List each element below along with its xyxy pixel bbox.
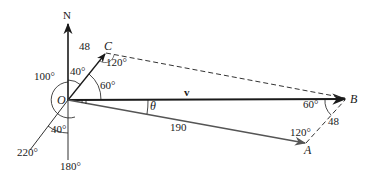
- vector-oa: [68, 100, 305, 143]
- point-b-label: B: [350, 92, 358, 106]
- len-ab-label: 48: [328, 115, 340, 127]
- arc-40-top: [68, 80, 81, 85]
- angle-60-o-label: 60°: [100, 79, 115, 91]
- angle-120-a-label: 120°: [290, 126, 311, 138]
- len-oc-label: 48: [79, 40, 91, 52]
- angle-40-bottom-label: 40°: [51, 123, 66, 135]
- angle-40-top-label: 40°: [70, 65, 85, 77]
- angle-100-label: 100°: [34, 70, 55, 82]
- north-label: N: [63, 9, 71, 21]
- bearing-180-label: 180°: [60, 160, 81, 172]
- bearing-220-label: 220°: [17, 146, 38, 158]
- vector-v-label: v: [184, 86, 190, 98]
- point-a-label: A: [303, 143, 312, 157]
- point-c-label: C: [104, 39, 113, 53]
- theta-label: θ: [150, 99, 156, 113]
- angle-120-c-label: 120°: [106, 56, 127, 68]
- vector-diagram: N O C B A v θ 48 48 190 100° 40° 60° 120…: [0, 0, 372, 182]
- dashed-cb: [106, 53, 345, 98]
- len-oa-label: 190: [170, 121, 187, 133]
- arc-60-b: [325, 99, 331, 115]
- angle-60-b-label: 60°: [303, 98, 318, 110]
- arc-theta-large: [147, 100, 148, 114]
- origin-label: O: [57, 93, 66, 107]
- vector-oc: [68, 54, 105, 100]
